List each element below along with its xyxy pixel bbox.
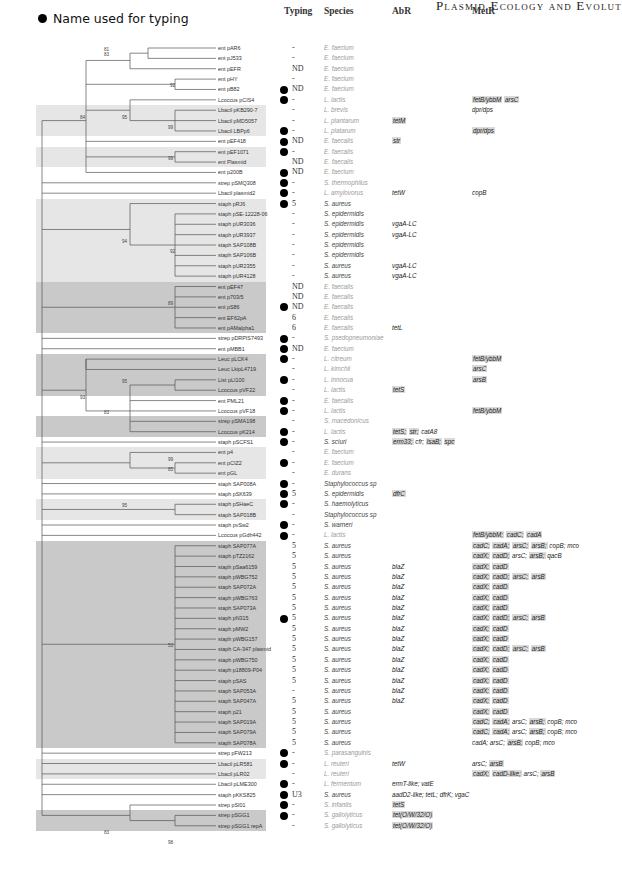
species-name: L. reuteri (324, 769, 349, 780)
typing-value: 5 (292, 717, 296, 728)
leaf-name: ent Plasmid (218, 157, 246, 168)
typing-value: - (292, 437, 295, 448)
gene-label: cadX; (472, 666, 490, 673)
metr-genes: cadX; cadD; arsC; arsB (472, 644, 546, 655)
typing-value: ND (292, 157, 304, 168)
typing-value: 5 (292, 489, 296, 500)
gene-label: cadC; (472, 542, 490, 549)
gene-label: tetW (392, 760, 405, 767)
gene-label: cadD (492, 594, 509, 601)
tree-leaf-row: Lbacil LBPp6-L. platarumdpr/dps (0, 126, 616, 137)
species-name: S. aureus (324, 655, 351, 666)
tree-leaf-row: ent pMBB1NDE. faecium (0, 344, 616, 355)
gene-label: arsB (472, 376, 487, 383)
tree-leaf-row: staph pTZ21625S. aureuscadX; cadD; arsC;… (0, 551, 616, 562)
gene-label: spc (444, 438, 456, 445)
species-name: E. faecium (324, 53, 354, 64)
metr-genes: cadC; cadA; arsC; arsB; copB; mco (472, 727, 577, 738)
metr-genes: cadA; arsC; arsB; copB; mco (472, 738, 555, 749)
metr-genes: cadX; cadD; arsC; arsB (472, 613, 546, 624)
species-name: S. aureus (324, 686, 351, 697)
typing-dot-icon (280, 179, 288, 187)
species-name: E. faecalis (324, 282, 353, 293)
gene-label: str; (409, 428, 420, 435)
typing-value: 5 (292, 696, 296, 707)
tree-leaf-row: Lbacil pLR581-L. reuteritetW arsC; arsB (0, 759, 616, 770)
typing-value: - (292, 769, 295, 780)
gene-label: mco (565, 728, 577, 735)
typing-value: - (292, 385, 295, 396)
species-name: S. aureus (324, 199, 351, 210)
typing-value: - (292, 686, 295, 697)
typing-dot-icon (280, 345, 288, 353)
gene-label: blaZ (392, 635, 404, 642)
abr-genes: vgaA-LC (392, 219, 417, 230)
typing-value: - (292, 74, 295, 85)
species-name: S. epidermidis (324, 489, 364, 500)
tree-leaf-row: staph SAP078A5S. aureuscadA; arsC; arsB;… (0, 738, 616, 749)
typing-dot-icon (280, 200, 288, 208)
tree-leaf-row: staph SAP053A-S. aureusblaZ cadX; cadD (0, 686, 616, 697)
typing-dot-icon (280, 760, 288, 768)
tree-leaf-row: Lcoccus pCIS4-L. lactisfetB/ybbM arsC (0, 95, 616, 106)
typing-value: ND (292, 167, 304, 178)
leaf-name: staph pSCFS1 (218, 437, 253, 448)
tree-leaf-row: ent p200BNDE. faecium (0, 167, 616, 178)
tree-leaf-row: ent pEF1071-E. faecalis (0, 147, 616, 158)
typing-value: ND (292, 136, 304, 147)
gene-label: dpr/dps (472, 127, 495, 134)
gene-label: cadD (492, 697, 509, 704)
species-name: S. aureus (324, 271, 351, 282)
gene-label: cadX; (472, 625, 490, 632)
typing-value: 5 (292, 572, 296, 583)
metr-genes: cadC; cadA; arsC; arsB; copB; mco (472, 717, 577, 728)
typing-dot-icon (280, 407, 288, 415)
species-name: S. epidermidis (324, 219, 364, 230)
metr-genes: cadX; cadD (472, 655, 509, 666)
gene-label: erm33; (392, 438, 414, 445)
abr-genes: blaZ (392, 603, 404, 614)
abr-genes: blaZ (392, 624, 404, 635)
leaf-name: staph pN315 (218, 613, 249, 624)
gene-label: arsC; (490, 739, 505, 746)
typing-dot-icon (280, 490, 288, 498)
leaf-name: strep pSGG1 (218, 810, 249, 821)
bootstrap-value: 98 (168, 840, 173, 845)
typing-value: - (292, 126, 295, 137)
gene-label: cadD; (492, 552, 510, 559)
tree-leaf-row: staph pSHaeC-S. haemolyticus (0, 499, 616, 510)
bootstrap-value: 93 (80, 395, 85, 400)
tree-leaf-row: Lbacil pMD5057-L. plantarumtetM (0, 116, 616, 127)
gene-label: tetM (392, 117, 406, 124)
species-name: S. epidermidis (324, 230, 364, 241)
leaf-name: staph SAP008A (218, 479, 256, 490)
gene-label: cadD (492, 666, 509, 673)
tree-leaf-row: staph SAP077A5S. aureuscadC; cadA; arsC;… (0, 541, 616, 552)
abr-genes: tetM (392, 116, 406, 127)
metr-genes: cadX; cadD (472, 634, 509, 645)
leaf-name: staph pSE-12228-06 (218, 209, 267, 220)
gene-label: mco (567, 542, 579, 549)
gene-label: arsB (531, 573, 546, 580)
gene-label: arsC; (512, 614, 529, 621)
species-name: E. faecalis (324, 292, 353, 303)
typing-value: - (292, 116, 295, 127)
bootstrap-value: 83 (104, 830, 109, 835)
metr-genes: cadX; cadD (472, 707, 509, 718)
tree-leaf-row: staph CA-347 plasmid5S. aureusblaZ cadX;… (0, 644, 616, 655)
typing-value: - (292, 364, 295, 375)
gene-label: cadA; (492, 728, 510, 735)
typing-value: 5 (292, 738, 296, 749)
typing-value: - (292, 821, 295, 832)
gene-label: arsB; (529, 718, 546, 725)
gene-label: cadD (492, 604, 509, 611)
gene-label: cadA; (472, 739, 488, 746)
gene-label: blaZ (392, 687, 404, 694)
tree-leaf-row: ent PML21-E. faecalis (0, 396, 616, 407)
metr-genes: arsC (472, 364, 487, 375)
tree-leaf-row: ent EF62pA6E. faecalis (0, 313, 616, 324)
leaf-name: staph SAP053A (218, 686, 256, 697)
typing-value: - (292, 53, 295, 64)
metr-genes: cadX; cadD (472, 686, 509, 697)
species-name: S. parasanguinis (324, 748, 371, 759)
